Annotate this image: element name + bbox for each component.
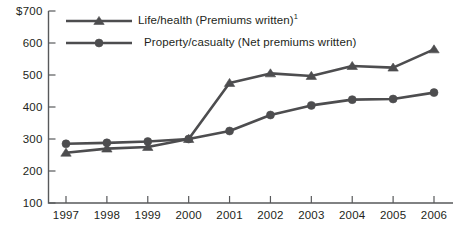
series-2 xyxy=(62,89,438,148)
data-point-marker xyxy=(103,139,111,147)
y-tick-label: 600 xyxy=(23,37,43,49)
x-tick-label: 2006 xyxy=(421,209,447,221)
series-line xyxy=(66,49,434,152)
x-tick-label: 1998 xyxy=(94,209,120,221)
x-tick-label: 2002 xyxy=(257,209,283,221)
line-chart: 100200300400500600$700 19971998199920002… xyxy=(0,0,465,228)
chart-container: 100200300400500600$700 19971998199920002… xyxy=(0,0,465,228)
data-point-marker xyxy=(62,140,70,148)
series-1 xyxy=(61,45,439,156)
legend-label: Property/casualty (Net premiums written) xyxy=(144,36,356,48)
y-tick-label: $700 xyxy=(16,5,42,17)
data-point-marker xyxy=(307,101,315,109)
x-axis: 1997199819992000200120022003200420052006 xyxy=(53,196,447,221)
data-point-marker xyxy=(185,135,193,143)
y-tick-label: 500 xyxy=(23,69,43,81)
data-point-marker xyxy=(226,127,234,135)
y-tick-label: 100 xyxy=(23,197,43,209)
y-tick-label: 400 xyxy=(23,101,43,113)
data-point-marker xyxy=(144,138,152,146)
data-point-marker xyxy=(266,111,274,119)
x-tick-label: 1997 xyxy=(53,209,79,221)
legend-item-1: Life/health (Premiums written)1 xyxy=(66,12,298,26)
data-point-marker xyxy=(430,89,438,97)
legend-item-2: Property/casualty (Net premiums written) xyxy=(66,36,356,48)
y-tick-label: 200 xyxy=(23,165,43,177)
data-point-marker xyxy=(348,96,356,104)
x-tick-label: 1999 xyxy=(135,209,161,221)
x-tick-label: 2001 xyxy=(216,209,242,221)
y-tick-label: 300 xyxy=(23,133,43,145)
legend-label: Life/health (Premiums written)1 xyxy=(138,12,298,26)
legend-footnote-marker: 1 xyxy=(294,12,298,21)
legend-swatch-marker xyxy=(95,39,103,47)
x-tick-label: 2000 xyxy=(175,209,201,221)
data-series-group xyxy=(61,45,439,156)
series-line xyxy=(66,93,434,144)
x-tick-label: 2004 xyxy=(339,209,366,221)
data-point-marker xyxy=(429,45,439,53)
x-tick-label: 2005 xyxy=(380,209,406,221)
data-point-marker xyxy=(389,95,397,103)
chart-legend: Life/health (Premiums written)1Property/… xyxy=(66,12,356,48)
x-tick-label: 2003 xyxy=(298,209,324,221)
